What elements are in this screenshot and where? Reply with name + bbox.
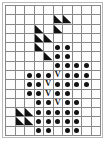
triangle-icon (35, 25, 44, 33)
grid-cell-empty (15, 126, 25, 135)
dot-icon (36, 73, 41, 78)
grid-cell-empty (72, 15, 82, 24)
grid-cell-empty (6, 52, 16, 61)
grid-cell-dot (34, 126, 44, 135)
grid-cell-empty (44, 15, 54, 24)
grid-cell-empty (25, 61, 35, 70)
dot-icon (65, 110, 70, 115)
grid-cell-dot (44, 126, 54, 135)
grid-cell-triangle (15, 108, 25, 117)
grid-cell-empty (82, 15, 92, 24)
grid-cell-empty (15, 43, 25, 52)
grid-cell-empty (91, 89, 101, 98)
grid-cell-dot (82, 61, 92, 70)
grid-cell-dot (44, 98, 54, 107)
grid-cell-empty (15, 80, 25, 89)
grid-cell-empty (91, 43, 101, 52)
grid-cell-dot (63, 80, 73, 89)
dot-icon (74, 63, 79, 68)
grid-cell-dot (34, 80, 44, 89)
grid-cell-dot (34, 89, 44, 98)
dot-icon (84, 73, 89, 78)
triangle-icon (63, 15, 72, 23)
grid-cell-empty (91, 126, 101, 135)
dot-icon (46, 100, 51, 105)
grid-cell-empty (44, 6, 54, 15)
grid-row: V (6, 89, 101, 98)
grid-cell-empty (82, 98, 92, 107)
grid-cell-triangle (34, 43, 44, 52)
grid-cell-dot (44, 108, 54, 117)
grid-cell-empty (25, 98, 35, 107)
grid-cell-empty (91, 98, 101, 107)
dot-icon (65, 119, 70, 124)
dot-icon (46, 110, 51, 115)
grid-cell-empty (82, 33, 92, 42)
grid-cell-empty (25, 6, 35, 15)
grid-cell-empty (44, 24, 54, 33)
grid-cell-empty (82, 108, 92, 117)
grid-cell-dot (63, 108, 73, 117)
dot-icon (55, 110, 60, 115)
grid-cell-empty (91, 52, 101, 61)
grid-cell-dot (63, 61, 73, 70)
grid-cell-empty (72, 33, 82, 42)
grid-cell-empty (6, 61, 16, 70)
triangle-icon (16, 117, 25, 125)
grid-cell-empty (72, 43, 82, 52)
dot-icon (65, 54, 70, 59)
grid-cell-empty (53, 33, 63, 42)
dot-icon (55, 45, 60, 50)
dot-icon (36, 119, 41, 124)
grid-row: V (6, 70, 101, 79)
dot-icon (74, 73, 79, 78)
dot-icon (55, 82, 60, 87)
grid-cell-triangle (34, 33, 44, 42)
grid-row (6, 24, 101, 33)
grid-cell-empty (25, 33, 35, 42)
grid-cell-dot (72, 126, 82, 135)
grid-row: V (6, 80, 101, 89)
grid-cell-empty (6, 80, 16, 89)
grid-cell-dot (53, 43, 63, 52)
grid-cell-dot (72, 70, 82, 79)
dot-icon (55, 63, 60, 68)
grid-cell-empty (72, 52, 82, 61)
vee-glyph: V (44, 80, 53, 88)
grid-cell-empty (72, 24, 82, 33)
grid-cell-empty (15, 15, 25, 24)
grid-cell-empty (82, 24, 92, 33)
grid-cell-vee: V (44, 80, 54, 89)
dot-icon (65, 128, 70, 133)
grid-cell-empty (91, 15, 101, 24)
grid-cell-dot (25, 80, 35, 89)
pattern-grid: VVVV (5, 5, 101, 136)
dot-icon (27, 82, 32, 87)
grid-cell-empty (91, 6, 101, 15)
dot-icon (74, 110, 79, 115)
grid-cell-empty (82, 126, 92, 135)
grid-row (6, 117, 101, 126)
grid-cell-dot (25, 89, 35, 98)
pattern-figure: VVVV (0, 0, 106, 141)
dot-icon (65, 91, 70, 96)
triangle-icon (54, 25, 63, 33)
grid-cell-dot (63, 70, 73, 79)
dot-icon (36, 100, 41, 105)
grid-cell-triangle (63, 15, 73, 24)
grid-cell-vee: V (53, 70, 63, 79)
grid-cell-triangle (44, 52, 54, 61)
grid-row (6, 15, 101, 24)
vee-glyph: V (54, 71, 63, 79)
grid-cell-dot (82, 80, 92, 89)
grid-cell-dot (53, 89, 63, 98)
grid-cell-dot (53, 52, 63, 61)
grid-cell-dot (34, 108, 44, 117)
grid-cell-dot (82, 70, 92, 79)
dot-icon (36, 91, 41, 96)
grid-cell-empty (6, 33, 16, 42)
triangle-icon (16, 108, 25, 116)
triangle-icon (35, 34, 44, 42)
grid-cell-empty (25, 126, 35, 135)
grid-cell-dot (53, 117, 63, 126)
